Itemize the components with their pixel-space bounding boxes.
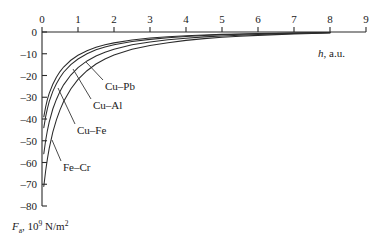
adhesion-force-plot: 0123456789 0–10–20–30–40–50–60–70–80 Cu–…	[0, 0, 380, 246]
y-tick-label: –20	[20, 70, 38, 82]
x-tick-label: 5	[219, 13, 225, 25]
y-tick-label: –10	[20, 48, 38, 60]
y-axis-title-mid: , 10	[22, 220, 39, 232]
x-tick-label: 1	[75, 13, 81, 25]
leader-line-fe-cr	[52, 140, 61, 161]
x-axis-title: h, a.u.	[318, 47, 345, 59]
curve-callout-labels: Cu–Pb Cu–Al Cu–Fe Fe–Cr	[63, 80, 135, 173]
x-tick-label: 0	[39, 13, 45, 25]
x-tick-marks	[42, 27, 366, 32]
y-tick-label: –60	[20, 157, 38, 169]
y-tick-label: –50	[20, 135, 38, 147]
curve-label-fe-cr: Fe–Cr	[63, 161, 91, 173]
y-tick-labels: 0–10–20–30–40–50–60–70–80	[20, 26, 38, 212]
x-tick-label: 9	[363, 13, 369, 25]
y-axis-title-tail: N/m	[42, 220, 65, 232]
x-axis-title-units: , a.u.	[324, 47, 346, 59]
x-tick-label: 6	[255, 13, 261, 25]
x-tick-label: 4	[183, 13, 189, 25]
y-tick-label: 0	[32, 26, 38, 38]
y-tick-label: –30	[20, 91, 38, 103]
y-tick-label: –70	[20, 178, 38, 190]
x-tick-label: 8	[327, 13, 333, 25]
chart-figure: 0123456789 0–10–20–30–40–50–60–70–80 Cu–…	[0, 0, 380, 246]
x-tick-label: 2	[111, 13, 117, 25]
x-tick-labels: 0123456789	[39, 13, 369, 25]
curve-cu-al	[44, 32, 330, 127]
curve-cu-pb	[44, 32, 330, 116]
y-tick-label: –40	[20, 113, 38, 125]
y-tick-label: –80	[20, 200, 38, 212]
leader-line-cu-al	[73, 69, 91, 99]
curve-label-cu-al: Cu–Al	[93, 99, 122, 111]
curve-label-cu-pb: Cu–Pb	[105, 80, 135, 92]
curve-label-cu-fe: Cu–Fe	[77, 124, 106, 136]
x-tick-label: 3	[147, 13, 153, 25]
y-axis-title: Fa, 109 N/m2	[11, 219, 69, 235]
x-tick-label: 7	[291, 13, 297, 25]
y-axis-title-tail-exponent: 2	[65, 219, 69, 228]
leader-line-cu-fe	[58, 88, 75, 124]
